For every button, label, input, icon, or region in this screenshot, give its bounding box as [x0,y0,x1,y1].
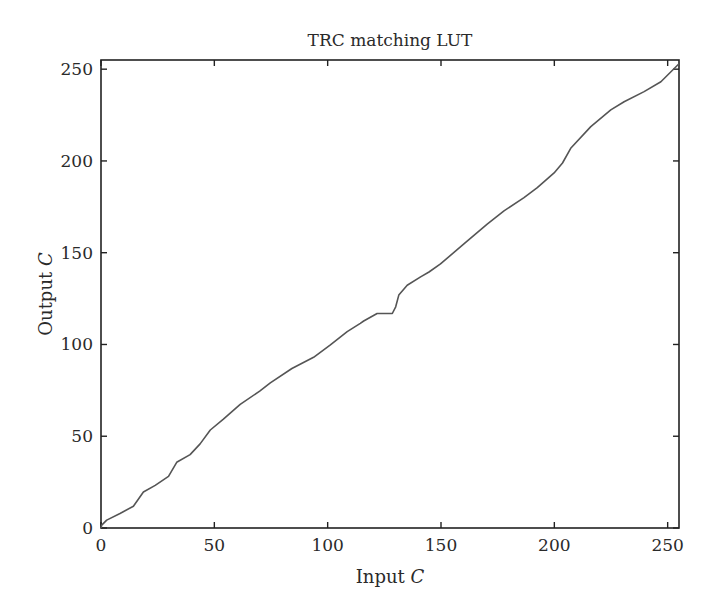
x-tick-label: 100 [311,535,343,555]
y-axis-label-var: C [35,252,56,266]
y-tick-label: 250 [61,59,93,79]
x-axis-label-text: Input [356,566,411,587]
y-axis-label-text: Output [35,266,56,336]
x-tick-label: 150 [425,535,457,555]
y-axis-label: Output C [35,252,56,336]
x-tick-label: 200 [538,535,570,555]
plot-frame [101,60,679,528]
axis-ticks [101,60,679,528]
axis-tick-labels: 050100150200250050100150200250 [61,59,684,555]
y-tick-label: 50 [71,426,93,446]
x-axis-label-var: C [411,566,425,587]
x-axis-label: Input C [356,566,425,587]
chart: TRC matching LUT 05010015020025005010015… [0,0,713,608]
x-tick-label: 50 [204,535,226,555]
y-tick-label: 150 [61,243,93,263]
y-tick-label: 0 [82,518,93,538]
plot-area: 050100150200250050100150200250 [61,59,684,555]
x-tick-label: 0 [96,535,107,555]
y-tick-label: 200 [61,151,93,171]
chart-title: TRC matching LUT [308,30,473,50]
y-tick-label: 100 [61,334,93,354]
x-tick-label: 250 [651,535,683,555]
trc-lut-line [101,64,679,528]
